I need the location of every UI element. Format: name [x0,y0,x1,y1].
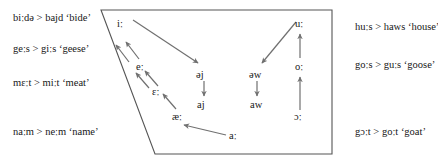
vowel-aw: aw [250,100,262,111]
vowel-a-long: aː [229,131,237,142]
vowel-e-long: eː [136,62,144,73]
vowel-aj: aj [197,100,205,111]
vowel-i-long: iː [117,19,123,30]
vowel-trapezoid [0,0,438,164]
vowel-epsilon-long: ɛː [152,87,159,98]
arrow-a-to-ae [184,125,226,135]
vowel-u-long: uː [295,19,303,30]
vowel-schwa-j: əj [196,70,204,81]
arrow-i-to-schwa-j [133,20,198,63]
arrow-u-to-schwa-w [262,22,296,63]
arrow-ae-to-epsilon [163,94,176,109]
vowel-o-long: oː [295,62,303,73]
vowel-schwa-w: əw [249,70,261,81]
vowel-shift-figure: biːdə > bajd ‘bide’ geːs > giːs ‘geese’ … [0,0,438,164]
vowel-open-o-long: ɔː [294,112,302,123]
vowel-ae-long: æː [172,112,182,123]
